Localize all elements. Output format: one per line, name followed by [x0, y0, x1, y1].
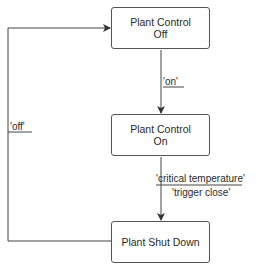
state-plant-shut-down: Plant Shut Down: [111, 221, 210, 263]
state-label: Off: [130, 28, 191, 41]
state-label: Plant Shut Down: [121, 236, 199, 249]
transition-label-critical-temperature: 'critical temperature': [156, 173, 245, 184]
state-label: Plant Control: [130, 16, 191, 29]
state-label: Plant Control: [130, 123, 191, 136]
state-plant-control-off: Plant Control Off: [111, 7, 210, 49]
state-label: On: [130, 135, 191, 148]
state-plant-control-on: Plant Control On: [111, 114, 210, 156]
arrow-shutdown-to-off: [8, 28, 111, 241]
transition-action-trigger-close: 'trigger close': [172, 187, 230, 198]
transition-label-off: 'off': [10, 121, 25, 132]
transition-label-on: 'on': [163, 76, 178, 87]
